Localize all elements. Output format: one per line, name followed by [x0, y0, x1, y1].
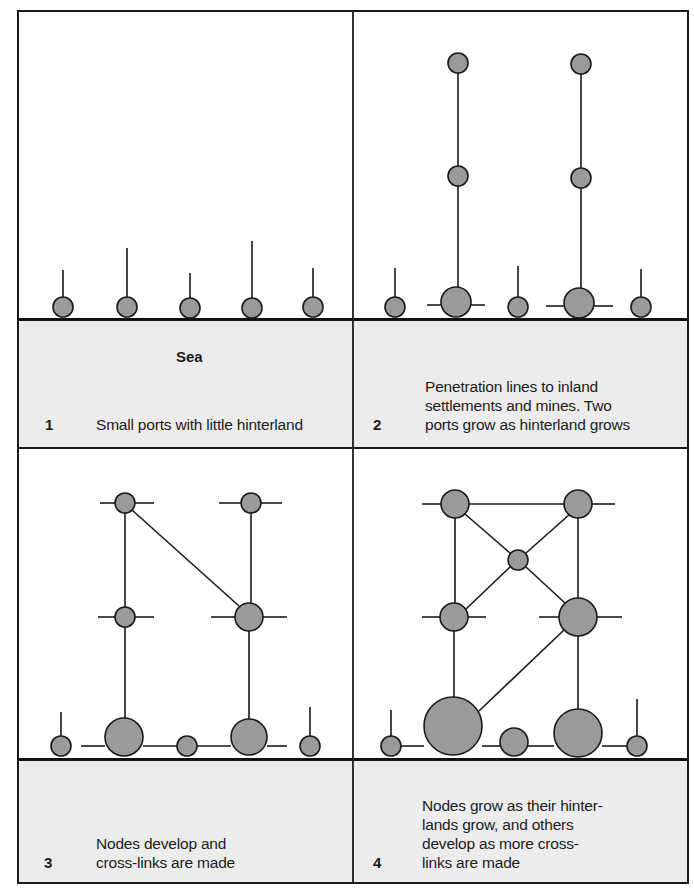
- sea-label: Sea: [176, 348, 203, 365]
- route-line: [466, 567, 510, 609]
- port-node: [231, 719, 267, 755]
- port-node: [440, 603, 468, 631]
- port-node: [448, 166, 468, 186]
- port-node: [554, 709, 602, 757]
- panel-4-caption: Nodes grow as their hinter- lands grow, …: [422, 796, 603, 872]
- port-node: [571, 54, 591, 74]
- port-node: [115, 607, 135, 627]
- panel-2-number: 2: [373, 416, 381, 433]
- panel-3-number: 3: [44, 854, 52, 871]
- panel-2-caption: Penetration lines to inland settlements …: [425, 377, 630, 434]
- port-node: [235, 603, 263, 631]
- port-node: [571, 168, 591, 188]
- panel-1-number: 1: [45, 416, 53, 433]
- route-line: [526, 514, 570, 553]
- port-node: [508, 550, 528, 570]
- port-node: [559, 598, 597, 636]
- port-node: [424, 697, 482, 755]
- route-line: [132, 510, 239, 606]
- port-development-diagram: [0, 0, 694, 893]
- port-node: [631, 297, 651, 317]
- port-node: [177, 736, 197, 756]
- route-line: [465, 514, 510, 553]
- port-node: [500, 728, 528, 756]
- port-node: [381, 736, 401, 756]
- port-node: [180, 298, 200, 318]
- port-node: [448, 53, 468, 73]
- port-node: [117, 297, 137, 317]
- port-node: [300, 736, 320, 756]
- port-node: [564, 288, 594, 318]
- panel-1-caption: Small ports with little hinterland: [96, 415, 303, 434]
- port-node: [51, 736, 71, 756]
- port-node: [53, 297, 73, 317]
- port-node: [627, 736, 647, 756]
- port-node: [241, 493, 261, 513]
- port-node: [564, 490, 592, 518]
- route-line: [526, 567, 565, 603]
- port-node: [441, 287, 471, 317]
- port-node: [115, 493, 135, 513]
- route-line: [479, 630, 564, 711]
- port-node: [385, 297, 405, 317]
- port-node: [303, 297, 323, 317]
- port-node: [242, 298, 262, 318]
- panel-3-caption: Nodes develop and cross-links are made: [96, 834, 235, 872]
- panel-4-number: 4: [373, 854, 381, 871]
- port-node: [105, 718, 143, 756]
- port-node: [441, 490, 469, 518]
- port-node: [508, 297, 528, 317]
